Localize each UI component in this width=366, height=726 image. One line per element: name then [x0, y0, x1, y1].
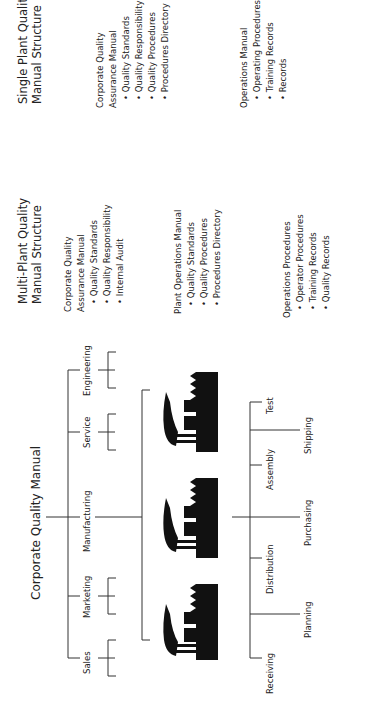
process-distribution: Distribution — [266, 544, 275, 594]
single-operations-item: • Training Records — [266, 22, 275, 100]
factory-icons — [163, 372, 218, 660]
plant-operations-heading: Plant Operations Manual — [174, 210, 183, 314]
process-planning: Planning — [304, 601, 313, 638]
dept-manufacturing: Manufacturing — [83, 490, 92, 552]
plant-operations-item: • Quality Standards — [187, 222, 196, 306]
cross-symbol-sales — [98, 640, 116, 676]
cross-symbol-marketing — [98, 578, 116, 614]
single-operations-item: • Operating Procedures — [253, 0, 262, 100]
multi-plant-title-line2: Manual Structure — [32, 205, 44, 304]
dept-engineering: Engineering — [83, 345, 92, 396]
plant-operations-item: • Procedures Directory — [213, 209, 222, 306]
dept-marketing: Marketing — [83, 576, 92, 618]
cross-symbol-service — [98, 414, 116, 450]
plant-operations-item: • Quality Procedures — [200, 218, 209, 306]
corporate-quality-manual-root: Corporate Quality Manual — [30, 446, 42, 600]
multi-plant-title-line1: Multi-Plant Quality — [18, 198, 30, 304]
cross-symbol-engineering — [98, 352, 116, 388]
multi-corporate-item: • Quality Standards — [90, 220, 99, 304]
factory-icon-2 — [163, 478, 218, 558]
multi-corporate-item: • Quality Responsibility — [103, 204, 112, 304]
multi-corporate-heading-2: Assurance Manual — [77, 234, 86, 312]
multi-corporate-item: • Internal Audit — [116, 239, 125, 304]
multi-corporate-heading-1: Corporate Quality — [64, 236, 73, 312]
process-purchasing: Purchasing — [304, 499, 313, 546]
single-operations-heading: Operations Manual — [240, 28, 249, 108]
operations-procedures-item: • Training Records — [309, 232, 318, 310]
single-corporate-heading-2: Assurance Manual — [109, 30, 118, 108]
single-operations-item: • Records — [279, 58, 288, 100]
single-plant-title-line1: Single Plant Quality — [18, 0, 30, 104]
single-corporate-heading-1: Corporate Quality — [96, 32, 105, 108]
process-test: Test — [266, 397, 275, 414]
single-corporate-item: • Quality Procedures — [148, 12, 157, 100]
operations-procedures-item: • Quality Records — [322, 235, 331, 310]
dept-sales: Sales — [83, 651, 92, 674]
single-plant-title-line2: Manual Structure — [32, 5, 44, 104]
process-assembly: Assembly — [266, 449, 275, 490]
process-receiving: Receiving — [266, 653, 275, 694]
factory-icon-3 — [163, 584, 218, 660]
operations-procedures-heading: Operations Procedures — [283, 221, 292, 318]
factory-icon-1 — [163, 372, 218, 452]
process-shipping: Shipping — [304, 417, 313, 454]
operations-procedures-item: • Operator Procedures — [296, 214, 305, 310]
single-corporate-item: • Procedures Directory — [161, 3, 170, 100]
dept-service: Service — [83, 417, 92, 448]
single-corporate-item: • Quality Responsibility — [135, 0, 144, 100]
single-corporate-item: • Quality Standards — [122, 16, 131, 100]
